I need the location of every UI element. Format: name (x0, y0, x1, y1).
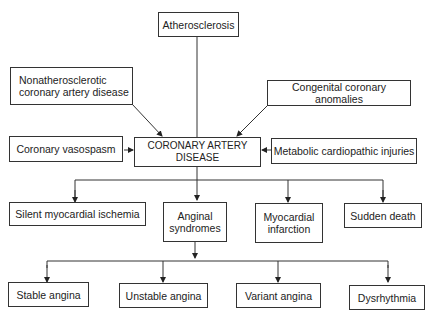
node-vasospasm: Coronary vasospasm (9, 136, 123, 162)
node-metabolic: Metabolic cardiopathic injuries (271, 138, 417, 164)
node-nonatherosclerotic: Nonatherosclerotic coronary artery disea… (10, 67, 133, 105)
node-cad: CORONARY ARTERY DISEASE (134, 137, 261, 167)
node-dysrhythmia: Dysrhythmia (349, 285, 425, 310)
node-atherosclerosis: Atherosclerosis (158, 12, 239, 37)
node-myocardial-infarction: Myocardial infarction (255, 203, 323, 243)
diagram: Atherosclerosis Nonatherosclerotic coron… (0, 0, 434, 319)
node-sudden-death: Sudden death (344, 203, 422, 228)
node-silent-ischemia: Silent myocardial ischemia (9, 202, 146, 226)
node-congenital: Congenital coronary anomalies (267, 80, 411, 106)
node-variant-angina: Variant angina (236, 283, 321, 308)
node-stable-angina: Stable angina (8, 282, 89, 307)
node-unstable-angina: Unstable angina (119, 283, 208, 308)
node-anginal-syndromes: Anginal syndromes (163, 202, 227, 242)
